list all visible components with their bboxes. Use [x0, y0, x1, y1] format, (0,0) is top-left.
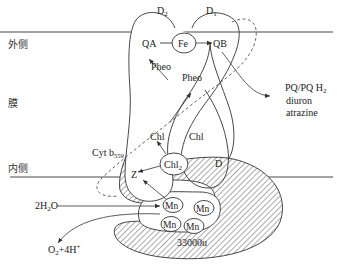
membrane-label: 膜 [8, 98, 18, 109]
qa-label: QA [142, 38, 157, 49]
fe-label: Fe [178, 38, 189, 49]
mn-label-3: Mn [163, 220, 176, 230]
chl-left-label: Chl [150, 131, 165, 142]
d1-label: D1 [206, 5, 217, 18]
water-label: 2H2O [35, 200, 58, 213]
pheo-left-label: Pheo [151, 61, 171, 72]
cyt-b559-label: Cyt b559 [92, 147, 124, 159]
protein-33000u-label: 33000u [177, 237, 207, 248]
inner-side-label: 内侧 [8, 162, 28, 174]
mn-label-1: Mn [165, 201, 178, 211]
d2-crossing-line [210, 42, 234, 160]
atrazine-label: atrazine [286, 107, 318, 118]
diuron-label: diuron [286, 95, 312, 106]
qb-label: QB [213, 38, 227, 49]
z-label: Z [131, 169, 137, 180]
pq-label: PQ/PQ H2 [285, 82, 327, 95]
psii-diagram: 外侧 膜 内侧 D2 D1 D QA Fe QB Pheo Pheo Chl C… [0, 0, 345, 270]
oxygen-product-label: O2+4H+ [48, 243, 81, 257]
d-label: D [215, 158, 222, 169]
pheo-right-label: Pheo [182, 72, 202, 83]
chl-right-label: Chl [189, 131, 204, 142]
mn-label-2: Mn [196, 204, 209, 214]
outer-side-label: 外侧 [8, 38, 28, 50]
mn-label-4: Mn [186, 222, 199, 232]
